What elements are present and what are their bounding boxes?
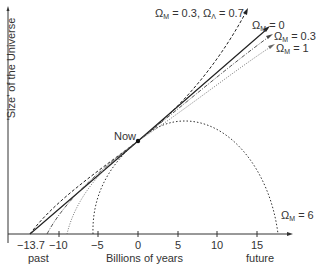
curve-om0 bbox=[30, 29, 267, 234]
label-om1: ΩM = 1 bbox=[276, 43, 309, 55]
omega-symbol: Ω bbox=[281, 209, 289, 221]
arrowhead-icon bbox=[266, 34, 273, 39]
omega-symbol: Ω bbox=[252, 19, 260, 31]
universe-expansion-diagram bbox=[0, 0, 319, 266]
x-axis-label: Billions of years bbox=[106, 253, 183, 264]
tick-label: −13.7 bbox=[17, 240, 45, 251]
curve-lambda bbox=[30, 12, 246, 234]
omega-symbol: Ω bbox=[276, 42, 284, 54]
label-om6: ΩM = 6 bbox=[281, 210, 314, 222]
future-label: future bbox=[246, 253, 274, 264]
label-lambda: ΩM = 0.3, ΩΛ = 0.7 bbox=[155, 8, 244, 20]
omega-symbol: Ω bbox=[155, 7, 163, 19]
omega-symbol: Ω bbox=[274, 30, 282, 42]
arrowhead-icon bbox=[268, 44, 275, 49]
label-text: = 0.3 bbox=[288, 30, 316, 42]
label-text: = 0.3, Ω bbox=[169, 7, 211, 19]
curve-om03 bbox=[47, 36, 270, 234]
x-axis-arrow-icon bbox=[287, 232, 293, 236]
tick-label: 0 bbox=[135, 240, 141, 251]
tick-label: 5 bbox=[175, 240, 181, 251]
now-marker bbox=[136, 139, 140, 143]
curve-om1 bbox=[67, 46, 272, 234]
tick-label: 15 bbox=[251, 240, 263, 251]
label-text: = 1 bbox=[290, 42, 309, 54]
label-text: = 6 bbox=[295, 209, 314, 221]
tick-label: −10 bbox=[49, 240, 68, 251]
label-text: = 0.7 bbox=[216, 7, 244, 19]
past-label: past bbox=[28, 253, 49, 264]
tick-label: 10 bbox=[211, 240, 223, 251]
now-label: Now bbox=[114, 131, 136, 142]
y-axis-label: 'Size' of the Universe bbox=[5, 14, 17, 124]
tick-label: −5 bbox=[91, 240, 104, 251]
y-axis-arrow-icon bbox=[7, 6, 10, 11]
